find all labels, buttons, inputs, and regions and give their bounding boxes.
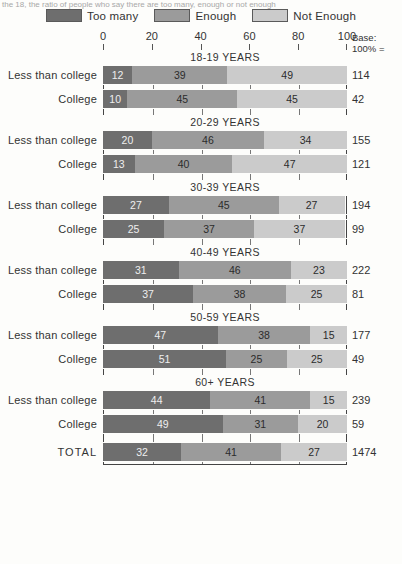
stacked-bar: 204634 [103, 130, 347, 150]
group-title: 20-29 YEARS [103, 115, 347, 130]
bar-segment: 41 [181, 443, 281, 461]
row-label: College [0, 219, 97, 239]
stacked-bar: 493120 [103, 414, 347, 434]
bar-segment: 20 [298, 415, 347, 433]
bar-segment: 51 [103, 350, 226, 368]
row-base-count: 99 [352, 219, 398, 239]
bar-segment: 38 [218, 326, 311, 344]
row-label: Less than college [0, 260, 97, 280]
row-base-count: 1474 [352, 442, 398, 462]
x-axis-tick-label: 0 [100, 30, 106, 42]
total-bar: 324127 [103, 442, 347, 462]
row-base-count: 155 [352, 130, 398, 150]
bar-segment: 47 [232, 155, 347, 173]
bar-segment: 32 [103, 443, 181, 461]
row-base-count: 81 [352, 284, 398, 304]
stacked-bar: 274527 [103, 195, 347, 215]
bar-segment: 27 [281, 443, 347, 461]
x-axis-tick-label: 80 [292, 30, 304, 42]
row-label: College [0, 154, 97, 174]
bar-segment: 37 [103, 285, 193, 303]
x-axis-tick-label: 20 [146, 30, 158, 42]
legend-label: Not Enough [293, 10, 356, 22]
chart-legend: Too manyEnoughNot Enough [0, 7, 402, 24]
legend-swatch-icon [252, 9, 288, 22]
base-header: Base: 100% = [352, 32, 385, 54]
bar-segment: 45 [127, 90, 237, 108]
bar-segment: 15 [310, 391, 347, 409]
bar-segment: 46 [179, 261, 291, 279]
row-base-count: 222 [352, 260, 398, 280]
bar-segment: 47 [103, 326, 218, 344]
bar-segment: 12 [103, 66, 132, 84]
bar-segment: 37 [164, 220, 254, 238]
bar-segment: 15 [310, 326, 347, 344]
row-base-count: 194 [352, 195, 398, 215]
bar-segment: 25 [103, 220, 164, 238]
row-base-count: 42 [352, 89, 398, 109]
row-base-count: 59 [352, 414, 398, 434]
bar-segment: 27 [279, 196, 345, 214]
row-label: College [0, 89, 97, 109]
row-label: College [0, 284, 97, 304]
bar-segment: 31 [103, 261, 179, 279]
row-label: Less than college [0, 65, 97, 85]
bar-segment: 46 [152, 131, 264, 149]
bar-segment: 25 [286, 285, 347, 303]
legend-item: Too many [46, 9, 138, 22]
base-header-line1: Base: [352, 32, 385, 43]
x-axis-tick-label: 40 [194, 30, 206, 42]
legend-label: Too many [87, 10, 138, 22]
legend-item: Enough [154, 9, 236, 22]
row-label: Less than college [0, 325, 97, 345]
bar-segment: 20 [103, 131, 152, 149]
x-axis: 020406080100 [0, 30, 402, 50]
bar-segment: 23 [291, 261, 347, 279]
row-label: College [0, 349, 97, 369]
bar-segment: 45 [237, 90, 347, 108]
row-label: Less than college [0, 195, 97, 215]
row-base-count: 121 [352, 154, 398, 174]
legend-label: Enough [195, 10, 236, 22]
bar-segment: 44 [103, 391, 210, 409]
row-label: College [0, 414, 97, 434]
stacked-bar: 253737 [103, 219, 347, 239]
base-header-line2: 100% = [352, 43, 385, 54]
stacked-bar: 134047 [103, 154, 347, 174]
group-title: 60+ YEARS [103, 375, 347, 390]
stacked-bar: 512525 [103, 349, 347, 369]
bar-segment: 49 [227, 66, 347, 84]
row-base-count: 177 [352, 325, 398, 345]
bar-segment: 40 [135, 155, 233, 173]
group-title: 18-19 YEARS [103, 50, 347, 65]
stacked-bar: 473815 [103, 325, 347, 345]
bar-segment: 39 [132, 66, 227, 84]
row-base-count: 239 [352, 390, 398, 410]
group-title: 40-49 YEARS [103, 245, 347, 260]
row-label: Less than college [0, 130, 97, 150]
row-base-count: 114 [352, 65, 398, 85]
bar-segment: 38 [193, 285, 286, 303]
bar-segment: 27 [103, 196, 169, 214]
bar-segment: 41 [210, 391, 310, 409]
legend-swatch-icon [154, 9, 190, 22]
stacked-bar: 314623 [103, 260, 347, 280]
group-title: 50-59 YEARS [103, 310, 347, 325]
row-base-count: 49 [352, 349, 398, 369]
bar-segment: 34 [264, 131, 347, 149]
row-label: Less than college [0, 390, 97, 410]
plot-bottom-rule [103, 464, 347, 465]
bar-segment: 37 [254, 220, 344, 238]
legend-item: Not Enough [252, 9, 356, 22]
bar-segment: 10 [103, 90, 127, 108]
bar-segment: 25 [226, 350, 286, 368]
bar-segment: 45 [169, 196, 279, 214]
stacked-bar: 123949 [103, 65, 347, 85]
stacked-bar: 104545 [103, 89, 347, 109]
bar-segment: 13 [103, 155, 135, 173]
bar-segment: 25 [287, 350, 347, 368]
total-row-label: TOTAL [0, 442, 97, 462]
legend-swatch-icon [46, 9, 82, 22]
stacked-bar: 373825 [103, 284, 347, 304]
stacked-bar: 444115 [103, 390, 347, 410]
